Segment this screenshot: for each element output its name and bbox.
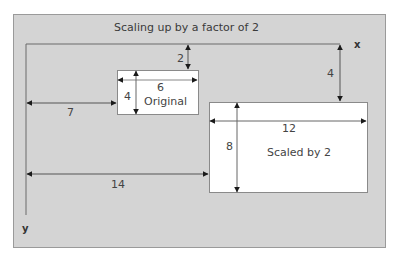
diagram-lines (0, 0, 397, 258)
scaled-offset-x-label: 14 (111, 178, 125, 191)
original-offset-y-label: 2 (177, 52, 184, 65)
scaled-height-label: 8 (226, 140, 233, 153)
scaled-width-label: 12 (282, 122, 296, 135)
x-axis-label: x (354, 39, 360, 50)
original-width-label: 6 (157, 81, 164, 94)
original-offset-x-label: 7 (67, 106, 74, 119)
original-height-label: 4 (124, 90, 131, 103)
y-axis-label: y (22, 223, 29, 234)
original-label: Original (144, 95, 187, 108)
scaled-label: Scaled by 2 (267, 146, 331, 159)
scaled-offset-y-label: 4 (327, 67, 334, 80)
